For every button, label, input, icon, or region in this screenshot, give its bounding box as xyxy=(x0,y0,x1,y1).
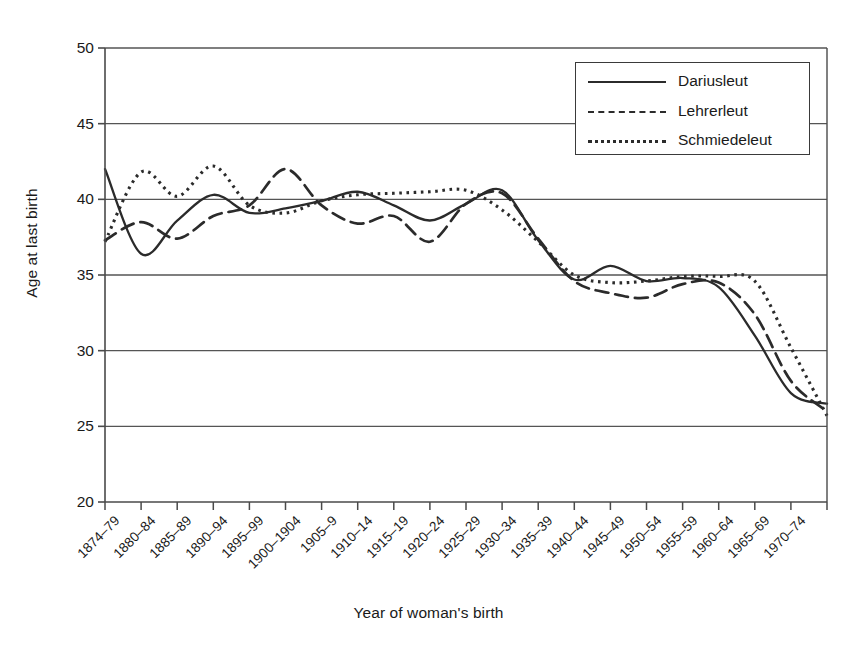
legend-line-solid-icon xyxy=(588,74,666,88)
legend-line-dotted-icon xyxy=(588,133,666,147)
chart-legend: Dariusleut Lehrerleut Schmiedeleut xyxy=(575,62,810,155)
x-axis-title: Year of woman's birth xyxy=(0,604,857,622)
legend-label: Dariusleut xyxy=(678,72,748,90)
legend-item-lehrerleut: Lehrerleut xyxy=(576,95,809,126)
legend-item-dariusleut: Dariusleut xyxy=(576,65,809,96)
legend-line-dashed-icon xyxy=(588,104,666,118)
legend-label: Schmiedeleut xyxy=(678,131,772,149)
chart-figure: 50454035302520 1874–791880–841885–891890… xyxy=(0,0,857,647)
y-axis-title: Age at last birth xyxy=(23,133,41,353)
legend-item-schmiedeleut: Schmiedeleut xyxy=(576,124,809,155)
legend-label: Lehrerleut xyxy=(678,102,748,120)
